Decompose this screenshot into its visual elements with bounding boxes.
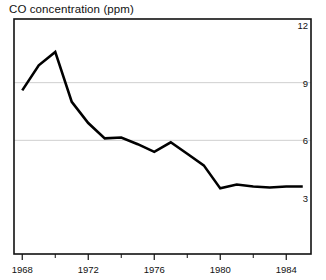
y-tick-label-9: 9 (303, 78, 308, 89)
x-tick-label-1976: 1976 (144, 264, 165, 275)
co-concentration-chart: CO concentration (ppm) 12963 19681972197… (0, 0, 326, 280)
y-tick-label-6: 6 (303, 135, 308, 146)
x-tick-label-1984: 1984 (276, 264, 297, 275)
x-tick-label-1972: 1972 (78, 264, 99, 275)
plot-background (14, 19, 311, 254)
x-axis-ticks: 19681972197619801984 (12, 254, 297, 275)
chart-plot-area: 12963 19681972197619801984 (0, 0, 326, 280)
x-tick-label-1968: 1968 (12, 264, 33, 275)
y-tick-label-3: 3 (303, 193, 308, 204)
y-tick-label-12: 12 (297, 20, 308, 31)
x-tick-label-1980: 1980 (210, 264, 231, 275)
